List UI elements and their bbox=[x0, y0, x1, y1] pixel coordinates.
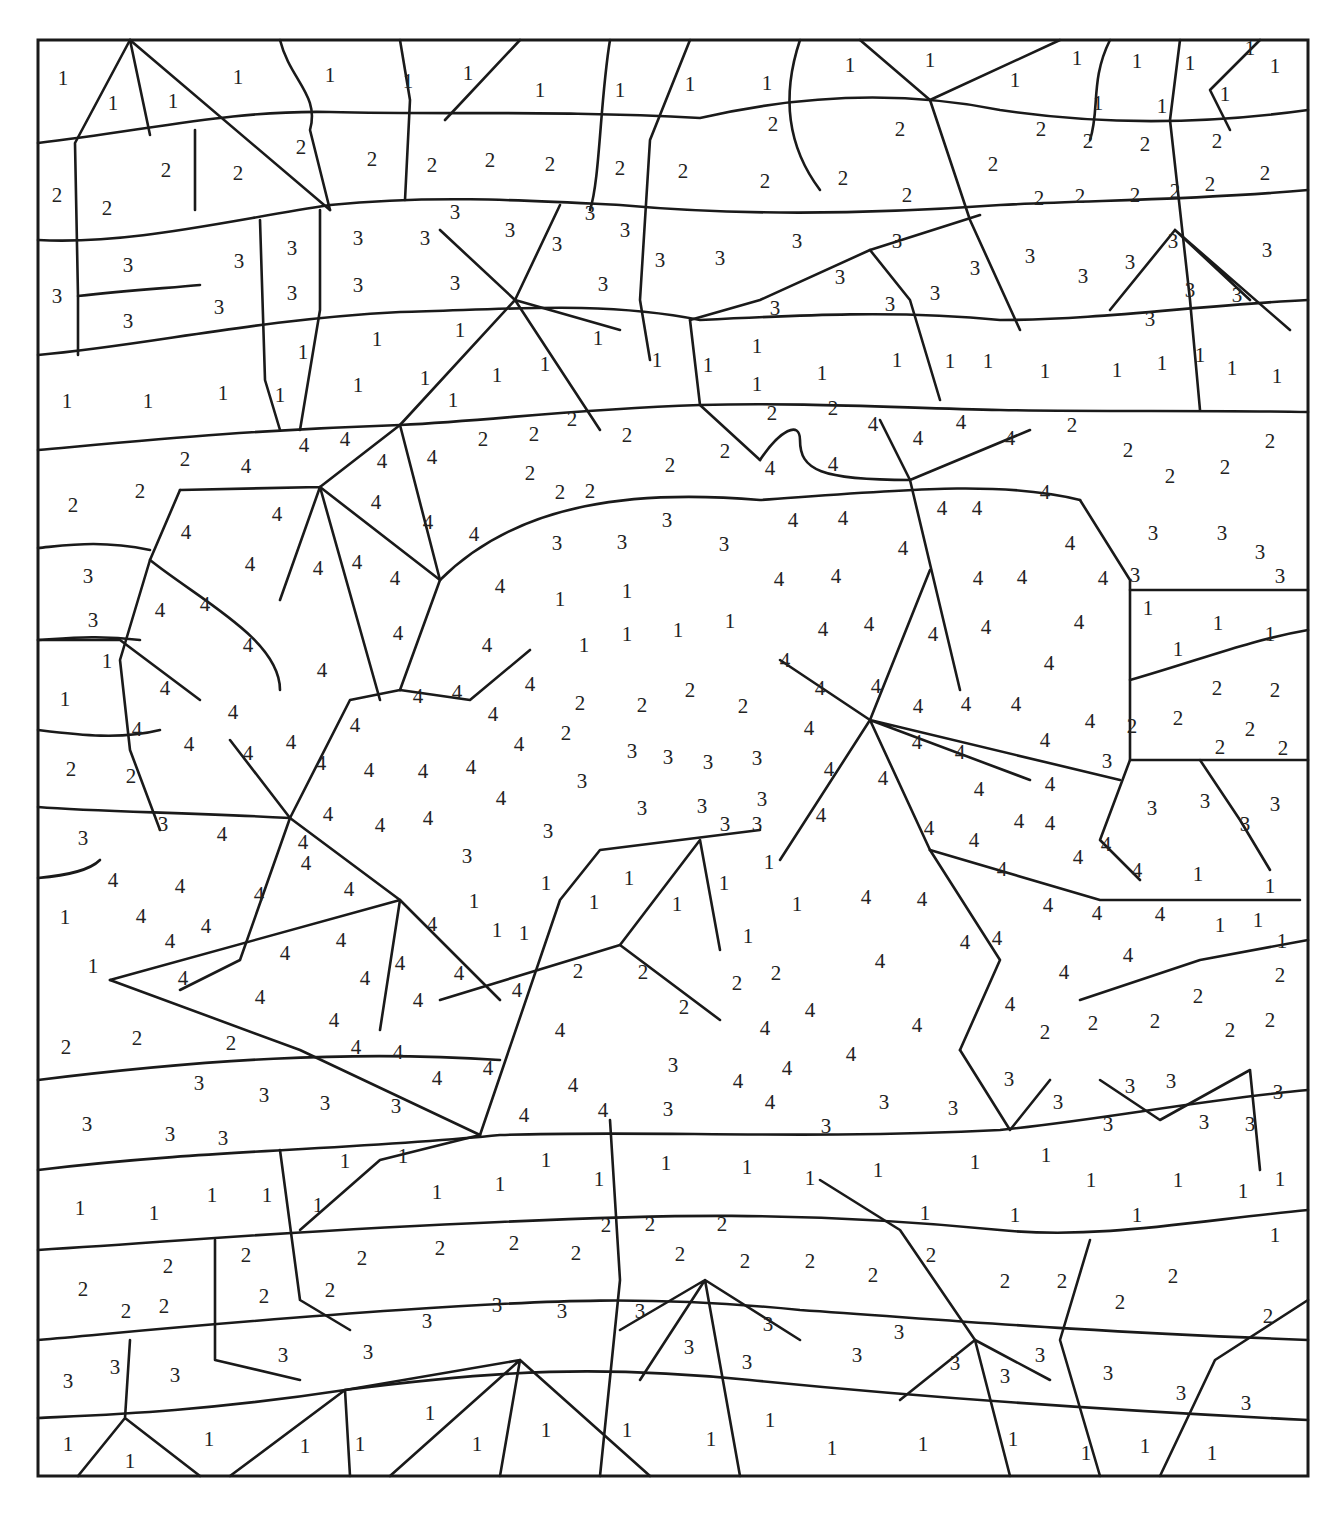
region-number-label: 4 bbox=[1059, 960, 1070, 984]
region-number-label: 4 bbox=[1043, 893, 1054, 917]
region-number-label: 4 bbox=[525, 672, 536, 696]
region-outline bbox=[1080, 500, 1140, 880]
region-number-label: 3 bbox=[763, 1312, 774, 1336]
region-number-label: 4 bbox=[733, 1069, 744, 1093]
region-number-label: 4 bbox=[336, 928, 347, 952]
region-number-label: 2 bbox=[601, 1213, 612, 1237]
region-number-label: 1 bbox=[743, 924, 754, 948]
region-number-label: 3 bbox=[320, 1091, 331, 1115]
region-number-label: 1 bbox=[353, 373, 364, 397]
region-number-label: 3 bbox=[1275, 564, 1286, 588]
region-outline bbox=[280, 40, 330, 210]
region-number-label: 2 bbox=[1225, 1018, 1236, 1042]
region-number-label: 3 bbox=[88, 608, 99, 632]
region-number-label: 1 bbox=[60, 687, 71, 711]
region-number-label: 3 bbox=[194, 1071, 205, 1095]
region-number-label: 4 bbox=[1011, 692, 1022, 716]
region-number-label: 1 bbox=[262, 1183, 273, 1207]
region-number-label: 2 bbox=[1127, 714, 1138, 738]
region-number-label: 4 bbox=[344, 877, 355, 901]
region-number-label: 4 bbox=[181, 520, 192, 544]
region-number-label: 4 bbox=[495, 574, 506, 598]
region-number-label: 4 bbox=[136, 904, 147, 928]
region-number-label: 1 bbox=[519, 921, 530, 945]
region-number-label: 4 bbox=[340, 427, 351, 451]
region-number-label: 3 bbox=[552, 531, 563, 555]
region-number-label: 3 bbox=[821, 1114, 832, 1138]
region-number-label: 3 bbox=[353, 226, 364, 250]
region-number-label: 1 bbox=[706, 1427, 717, 1451]
region-number-label: 1 bbox=[1265, 874, 1276, 898]
region-number-label: 2 bbox=[161, 158, 172, 182]
region-number-label: 3 bbox=[83, 564, 94, 588]
region-number-label: 4 bbox=[390, 566, 401, 590]
region-number-label: 1 bbox=[624, 866, 635, 890]
region-number-label: 3 bbox=[1168, 229, 1179, 253]
region-number-label: 3 bbox=[1270, 792, 1281, 816]
region-number-label: 4 bbox=[1101, 832, 1112, 856]
region-number-label: 3 bbox=[662, 508, 673, 532]
region-number-label: 3 bbox=[1199, 1110, 1210, 1134]
region-number-label: 1 bbox=[1270, 54, 1281, 78]
region-number-label: 4 bbox=[184, 732, 195, 756]
region-number-label: 3 bbox=[1147, 796, 1158, 820]
region-number-label: 1 bbox=[1132, 1203, 1143, 1227]
region-number-label: 4 bbox=[804, 716, 815, 740]
region-outline bbox=[620, 840, 720, 950]
region-number-label: 3 bbox=[930, 281, 941, 305]
region-outline bbox=[400, 40, 410, 200]
region-number-label: 2 bbox=[1170, 179, 1181, 203]
region-number-label: 3 bbox=[82, 1112, 93, 1136]
region-number-label: 3 bbox=[715, 246, 726, 270]
region-number-label: 4 bbox=[969, 828, 980, 852]
region-outline bbox=[38, 300, 1308, 355]
region-number-label: 2 bbox=[679, 995, 690, 1019]
region-number-label: 2 bbox=[1193, 984, 1204, 1008]
region-number-label: 2 bbox=[485, 148, 496, 172]
region-number-label: 3 bbox=[214, 295, 225, 319]
region-number-label: 2 bbox=[61, 1035, 72, 1059]
region-outline bbox=[38, 860, 100, 878]
region-number-label: 1 bbox=[845, 53, 856, 77]
region-number-label: 1 bbox=[432, 1180, 443, 1204]
region-number-label: 2 bbox=[685, 678, 696, 702]
region-outline bbox=[440, 488, 1080, 580]
region-number-label: 1 bbox=[1040, 359, 1051, 383]
region-number-label: 2 bbox=[1067, 413, 1078, 437]
region-number-label: 4 bbox=[301, 851, 312, 875]
region-number-label: 4 bbox=[423, 510, 434, 534]
region-number-label: 2 bbox=[233, 161, 244, 185]
region-number-label: 2 bbox=[926, 1243, 937, 1267]
region-number-label: 3 bbox=[165, 1122, 176, 1146]
region-number-label: 3 bbox=[462, 844, 473, 868]
region-number-label: 4 bbox=[997, 857, 1008, 881]
region-outline bbox=[860, 40, 1060, 100]
region-outline bbox=[280, 1150, 350, 1330]
region-number-label: 1 bbox=[1265, 622, 1276, 646]
region-number-label: 1 bbox=[1185, 51, 1196, 75]
region-number-label: 1 bbox=[1143, 596, 1154, 620]
region-number-label: 1 bbox=[541, 871, 552, 895]
region-number-label: 4 bbox=[898, 536, 909, 560]
region-number-label: 4 bbox=[217, 822, 228, 846]
region-number-label: 1 bbox=[579, 633, 590, 657]
region-number-label: 1 bbox=[1195, 343, 1206, 367]
region-number-label: 3 bbox=[1053, 1090, 1064, 1114]
region-number-label: 3 bbox=[637, 796, 648, 820]
region-number-label: 2 bbox=[1168, 1264, 1179, 1288]
region-number-label: 2 bbox=[102, 196, 113, 220]
region-outline bbox=[78, 1340, 200, 1476]
region-number-label: 1 bbox=[300, 1434, 311, 1458]
region-number-label: 3 bbox=[170, 1363, 181, 1387]
region-number-label: 3 bbox=[697, 794, 708, 818]
region-number-label: 3 bbox=[543, 819, 554, 843]
region-number-label: 4 bbox=[780, 648, 791, 672]
region-number-label: 1 bbox=[593, 326, 604, 350]
region-number-label: 1 bbox=[764, 850, 775, 874]
region-number-label: 1 bbox=[752, 372, 763, 396]
region-number-label: 1 bbox=[372, 327, 383, 351]
region-number-label: 1 bbox=[622, 622, 633, 646]
region-outline bbox=[1200, 760, 1270, 870]
region-number-label: 2 bbox=[121, 1299, 132, 1323]
region-number-label: 3 bbox=[492, 1293, 503, 1317]
